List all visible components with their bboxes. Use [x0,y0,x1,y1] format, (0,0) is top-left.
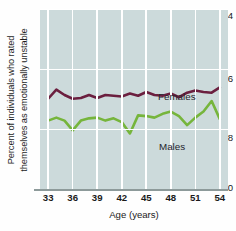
x-axis-title: Age (years) [40,209,228,220]
x-tick-label-54: 54 [214,192,225,203]
x-tick-label-39: 39 [92,192,103,203]
vertical-gridline-39 [96,9,98,190]
horizontal-gridline-8 [40,129,228,131]
x-tick-label-42: 42 [116,192,127,203]
vertical-gridline-45 [145,9,147,190]
chart-container: Percent of individuals who rated themsel… [0,0,236,231]
x-tick-label-51: 51 [190,192,201,203]
series-label-males: Males [159,141,185,152]
plot-area: Females Males [40,9,228,190]
x-tick-label-36: 36 [67,192,78,203]
horizontal-gridline-24 [40,9,228,10]
series-lines [40,9,228,190]
vertical-gridline-33 [47,9,49,190]
vertical-gridline-42 [121,9,123,190]
horizontal-gridline-16 [40,69,228,71]
x-tick-label-33: 33 [43,192,54,203]
x-tick-label-48: 48 [165,192,176,203]
y-axis-title-line-2: themselves as emotionally unstable [19,28,29,171]
x-axis-line [34,189,228,191]
y-axis-title: Percent of individuals who rated themsel… [0,0,34,200]
vertical-gridline-36 [72,9,74,190]
x-tick-label-45: 45 [141,192,152,203]
series-label-females: Females [158,91,196,102]
y-axis-title-line-1: Percent of individuals who rated [6,36,16,165]
x-tick-labels: 3336394245485154 [40,192,228,208]
vertical-gridline-54 [219,9,221,190]
plot-inner: Females Males [40,9,228,190]
